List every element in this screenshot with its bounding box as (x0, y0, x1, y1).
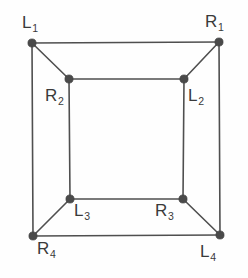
vertex-label-r1: R1 (205, 13, 223, 30)
vertex-label-base: L (188, 86, 198, 105)
vertex-label-base: L (22, 13, 32, 32)
graph-vertex-l1 (28, 39, 36, 47)
graph-vertex-r3 (179, 195, 187, 203)
graph-vertex-l2 (180, 75, 188, 83)
vertex-label-l1: L1 (22, 14, 38, 31)
graph-vertex-l4 (216, 231, 224, 239)
graph-edge-e-inner-right (183, 79, 184, 199)
vertex-label-subscript: 3 (168, 210, 174, 222)
vertex-label-subscript: 4 (50, 248, 56, 260)
edge-layer (32, 42, 220, 236)
vertex-label-l3: L3 (74, 202, 90, 219)
graph-edge-e-diag-tr (184, 42, 219, 79)
graph-edge-e-diag-bl (33, 199, 70, 236)
graph-canvas (0, 0, 248, 278)
vertex-label-base: L (200, 242, 210, 261)
vertex-label-subscript: 3 (84, 210, 90, 222)
graph-vertex-r4 (29, 232, 37, 240)
graph-vertex-r2 (65, 75, 73, 83)
vertex-label-r2: R2 (45, 87, 63, 104)
graph-edge-e-diag-tl (32, 43, 69, 79)
vertex-label-base: L (74, 201, 84, 220)
graph-edge-e-outer-right (219, 42, 220, 235)
vertex-label-subscript: 2 (198, 95, 204, 107)
graph-diagram: L1R1R2L2L3R3R4L4 (0, 0, 248, 278)
vertex-label-base: R (155, 201, 167, 220)
vertex-label-base: R (37, 239, 49, 258)
vertex-label-l2: L2 (188, 87, 204, 104)
vertex-label-base: R (205, 12, 217, 31)
vertex-label-r4: R4 (37, 240, 55, 257)
vertex-label-r3: R3 (155, 202, 173, 219)
graph-edge-e-outer-bottom (33, 235, 220, 236)
vertex-label-l4: L4 (200, 243, 216, 260)
vertex-label-subscript: 4 (210, 251, 216, 263)
graph-vertex-l3 (66, 195, 74, 203)
vertex-label-subscript: 1 (32, 22, 38, 34)
vertex-label-subscript: 2 (58, 95, 64, 107)
graph-edge-e-diag-br (183, 199, 220, 235)
graph-edge-e-inner-left (69, 79, 70, 199)
vertex-label-subscript: 1 (218, 21, 224, 33)
vertex-label-base: R (45, 86, 57, 105)
graph-edge-e-outer-left (32, 43, 33, 236)
graph-edge-e-outer-top (32, 42, 219, 43)
graph-vertex-r1 (215, 38, 223, 46)
